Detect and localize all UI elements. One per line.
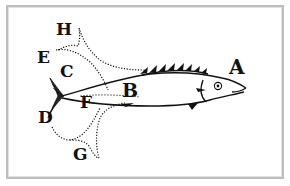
eye-icon <box>214 82 221 89</box>
h-fin-right-outline <box>79 28 145 70</box>
label-a: A <box>229 57 245 77</box>
label-c: C <box>60 63 74 80</box>
label-b: B <box>122 81 138 100</box>
label-d: D <box>38 109 53 126</box>
label-e: E <box>37 49 50 66</box>
label-g: G <box>73 146 88 163</box>
mouth-line <box>232 88 246 92</box>
fish-illustration <box>0 0 290 186</box>
label-h: H <box>56 21 72 38</box>
d-fin-outline <box>52 108 100 140</box>
label-f: F <box>80 94 92 111</box>
g-fin-right-outline <box>97 103 126 158</box>
